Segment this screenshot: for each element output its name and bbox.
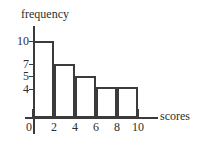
y-tick-4: 4 bbox=[4, 83, 29, 95]
bar-4-6 bbox=[75, 76, 96, 118]
histogram-chart: frequency scores 10 7 5 4 0 2 4 6 8 10 bbox=[0, 0, 210, 148]
x-tick-label-6: 6 bbox=[88, 121, 104, 133]
y-tick-label-4: 4 bbox=[7, 83, 29, 95]
bar-8-10 bbox=[117, 87, 138, 118]
x-axis-title: scores bbox=[160, 110, 190, 122]
y-axis-title: frequency bbox=[21, 8, 69, 20]
y-tick-label-5: 5 bbox=[7, 70, 29, 82]
y-tick-10: 10 bbox=[4, 35, 29, 47]
x-tick-label-0: 0 bbox=[21, 121, 37, 133]
bar-6-8 bbox=[96, 87, 117, 118]
x-tick-label-4: 4 bbox=[67, 121, 83, 133]
x-tick-label-8: 8 bbox=[109, 121, 125, 133]
bar-0-2 bbox=[33, 41, 54, 118]
bar-2-4 bbox=[54, 64, 75, 118]
x-tick-label-10: 10 bbox=[130, 121, 146, 133]
y-tick-label-10: 10 bbox=[7, 35, 29, 47]
y-tick-5: 5 bbox=[4, 70, 29, 82]
x-tick-label-2: 2 bbox=[46, 121, 62, 133]
